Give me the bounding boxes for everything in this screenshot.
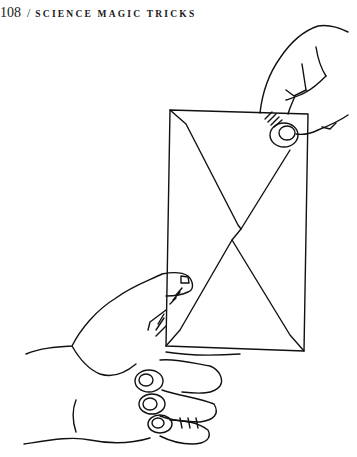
- upper-hand-icon: [260, 25, 348, 147]
- lower-hand-icon: [24, 273, 240, 444]
- envelope-hands-illustration: [0, 0, 357, 457]
